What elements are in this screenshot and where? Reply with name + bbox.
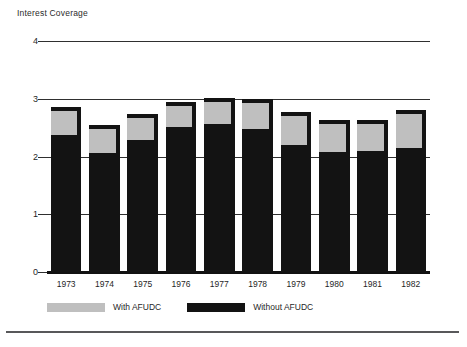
bar-segment-without-afudc[interactable] — [89, 153, 120, 272]
y-axis-tick — [38, 157, 47, 158]
bar-segment-with-afudc[interactable] — [166, 102, 197, 127]
legend-swatch-gray — [47, 303, 105, 312]
bar-segment-without-afudc[interactable] — [242, 129, 273, 272]
y-axis-tick — [38, 99, 47, 100]
bar-group[interactable]: 1982 — [396, 41, 427, 272]
bar-group[interactable]: 1979 — [281, 41, 312, 272]
plot-area: 01234 1973197419751976197719781979198019… — [47, 41, 430, 272]
bar-segment-with-afudc[interactable] — [281, 112, 312, 145]
bar-segment-with-afudc[interactable] — [127, 114, 158, 140]
legend-label: Without AFUDC — [253, 302, 313, 312]
y-axis-tick — [38, 272, 47, 273]
y-axis-tick-label: 4 — [33, 37, 38, 46]
y-axis-tick — [38, 214, 47, 215]
y-axis-tick-label: 2 — [33, 152, 38, 161]
bottom-divider — [6, 331, 459, 333]
bar-segment-with-afudc[interactable] — [319, 120, 350, 152]
y-axis-tick — [38, 41, 47, 42]
bar-segment-without-afudc[interactable] — [127, 140, 158, 272]
y-axis-tick-label: 1 — [33, 210, 38, 219]
bar-series-container: 1973197419751976197719781979198019811982 — [47, 41, 430, 272]
bar-group[interactable]: 1978 — [242, 41, 273, 272]
x-axis-tick-label: 1974 — [89, 279, 120, 289]
legend-swatch-black — [187, 303, 245, 312]
bar-segment-without-afudc[interactable] — [357, 151, 388, 272]
bar-segment-without-afudc[interactable] — [166, 127, 197, 272]
bar-segment-with-afudc[interactable] — [51, 107, 82, 135]
y-axis-tick-label: 0 — [33, 268, 38, 277]
x-axis-tick-label: 1975 — [127, 279, 158, 289]
bar-group[interactable]: 1977 — [204, 41, 235, 272]
bar-group[interactable]: 1973 — [51, 41, 82, 272]
x-axis-tick-label: 1980 — [319, 279, 350, 289]
x-axis-tick-label: 1976 — [166, 279, 197, 289]
legend-item[interactable]: Without AFUDC — [187, 302, 313, 312]
x-axis-tick-label: 1973 — [51, 279, 82, 289]
legend-item[interactable]: With AFUDC — [47, 302, 161, 312]
x-axis-tick-label: 1979 — [281, 279, 312, 289]
chart-axis-title: Interest Coverage — [17, 8, 88, 18]
bar-segment-with-afudc[interactable] — [242, 99, 273, 129]
bar-segment-with-afudc[interactable] — [357, 120, 388, 152]
x-axis-tick-label: 1981 — [357, 279, 388, 289]
bar-segment-without-afudc[interactable] — [396, 148, 427, 272]
x-axis-tick-label: 1982 — [396, 279, 427, 289]
bar-group[interactable]: 1975 — [127, 41, 158, 272]
bar-segment-without-afudc[interactable] — [51, 135, 82, 272]
bar-segment-without-afudc[interactable] — [204, 124, 235, 272]
legend-label: With AFUDC — [113, 302, 161, 312]
bar-segment-with-afudc[interactable] — [89, 125, 120, 153]
x-axis-tick-label: 1977 — [204, 279, 235, 289]
bar-group[interactable]: 1980 — [319, 41, 350, 272]
bar-group[interactable]: 1976 — [166, 41, 197, 272]
bar-segment-without-afudc[interactable] — [319, 152, 350, 272]
bar-group[interactable]: 1974 — [89, 41, 120, 272]
x-axis-tick-label: 1978 — [242, 279, 273, 289]
bar-segment-with-afudc[interactable] — [396, 110, 427, 148]
chart-legend: With AFUDCWithout AFUDC — [47, 302, 313, 312]
y-axis-tick-label: 3 — [33, 94, 38, 103]
chart-figure: Interest Coverage 01234 1973197419751976… — [0, 0, 467, 347]
bar-segment-without-afudc[interactable] — [281, 145, 312, 272]
bar-group[interactable]: 1981 — [357, 41, 388, 272]
bar-segment-with-afudc[interactable] — [204, 98, 235, 124]
